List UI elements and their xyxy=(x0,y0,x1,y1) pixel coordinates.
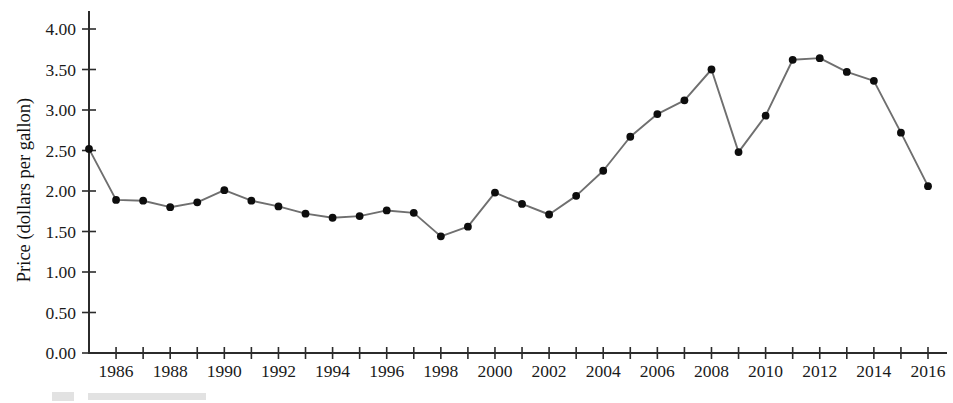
price-series-line xyxy=(89,58,928,236)
data-point xyxy=(681,96,689,104)
x-tick-label: 1994 xyxy=(315,361,350,381)
data-point xyxy=(247,197,255,205)
data-point xyxy=(383,207,391,215)
x-tick-label: 2016 xyxy=(911,361,946,381)
y-tick-label: 0.50 xyxy=(45,303,76,323)
x-tick-label: 1998 xyxy=(423,361,458,381)
data-point xyxy=(193,198,201,206)
data-point xyxy=(762,112,770,120)
data-point xyxy=(843,68,851,76)
x-tick-label: 1992 xyxy=(261,361,296,381)
y-tick-label: 0.00 xyxy=(45,343,76,363)
data-point xyxy=(870,77,878,85)
data-point xyxy=(626,133,634,141)
data-point xyxy=(491,189,499,197)
data-point xyxy=(924,182,932,190)
data-point xyxy=(356,212,364,220)
data-point xyxy=(545,211,553,219)
caption-fragment-right xyxy=(88,393,206,400)
y-tick-label: 3.50 xyxy=(45,60,76,80)
data-point xyxy=(897,129,905,137)
x-tick-label: 1990 xyxy=(207,361,242,381)
data-point xyxy=(112,196,120,204)
data-point xyxy=(464,223,472,231)
x-tick-label: 2010 xyxy=(748,361,783,381)
caption-fragment-left xyxy=(52,392,74,401)
y-axis-title-text: Price (dollars per gallon) xyxy=(14,98,35,282)
data-point xyxy=(518,200,526,208)
y-tick-label: 1.00 xyxy=(45,262,76,282)
y-tick-label: 2.50 xyxy=(45,141,76,161)
data-point xyxy=(816,54,824,62)
x-tick-label: 2000 xyxy=(477,361,512,381)
data-point xyxy=(599,167,607,175)
y-tick-label: 2.00 xyxy=(45,181,76,201)
x-tick-label: 1986 xyxy=(99,361,134,381)
x-tick-label: 1988 xyxy=(153,361,188,381)
x-tick-label: 1996 xyxy=(369,361,404,381)
data-point xyxy=(302,210,310,218)
x-tick-label: 2012 xyxy=(802,361,837,381)
y-axis-title: Price (dollars per gallon) xyxy=(14,98,35,282)
x-tick-label: 2006 xyxy=(640,361,675,381)
price-series-markers xyxy=(85,54,932,240)
data-point xyxy=(220,186,228,194)
data-point xyxy=(166,203,174,211)
data-point xyxy=(735,148,743,156)
data-point xyxy=(410,209,418,217)
y-tick-label: 1.50 xyxy=(45,222,76,242)
y-tick-label: 3.00 xyxy=(45,100,76,120)
data-point xyxy=(275,202,283,210)
x-tick-label: 2002 xyxy=(532,361,567,381)
y-tick-label: 4.00 xyxy=(45,19,76,39)
x-tick-label: 2008 xyxy=(694,361,729,381)
chart-page: Price (dollars per gallon) 0.000.501.001… xyxy=(0,0,953,403)
data-point xyxy=(789,56,797,64)
data-point xyxy=(708,66,716,74)
x-tick-label: 2014 xyxy=(856,361,891,381)
data-point xyxy=(653,110,661,118)
data-point xyxy=(437,232,445,240)
data-point xyxy=(329,214,337,222)
data-point xyxy=(85,145,93,153)
data-point xyxy=(572,192,580,200)
data-point xyxy=(139,197,147,205)
x-tick-label: 2004 xyxy=(586,361,621,381)
price-per-gallon-line-chart: Price (dollars per gallon) 0.000.501.001… xyxy=(0,0,953,403)
